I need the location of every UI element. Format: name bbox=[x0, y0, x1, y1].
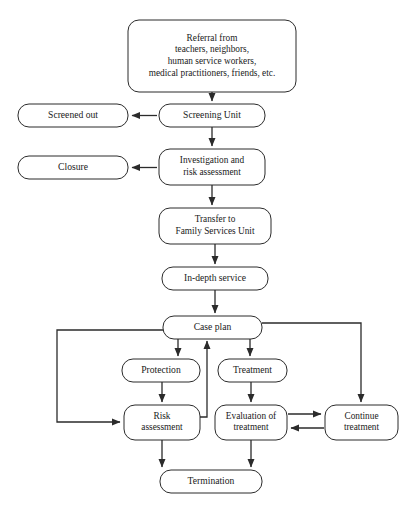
closure-node: Closure bbox=[18, 156, 128, 179]
referral-node-label-line: medical practitioners, friends, etc. bbox=[149, 68, 276, 78]
investigation-node-label-line: risk assessment bbox=[183, 167, 241, 177]
treatment-node: Treatment bbox=[218, 359, 287, 382]
continue-treatment-node-label-line: treatment bbox=[344, 422, 380, 432]
termination-node: Termination bbox=[160, 470, 262, 493]
in-depth-service-node: In-depth service bbox=[162, 267, 268, 290]
continue-treatment-node: Continuetreatment bbox=[325, 405, 398, 440]
termination-node-label-line: Termination bbox=[188, 475, 235, 486]
case-plan-node-label-line: Case plan bbox=[194, 321, 232, 332]
flowchart-diagram: Referral fromteachers, neighbors,human s… bbox=[0, 0, 417, 515]
evaluation-node: Evaluation oftreatment bbox=[215, 405, 287, 440]
investigation-node: Investigation andrisk assessment bbox=[159, 149, 265, 185]
referral-node-label-line: teachers, neighbors, bbox=[175, 44, 249, 54]
screening-unit-node: Screening Unit bbox=[159, 104, 265, 127]
continue-treatment-node-label-line: Continue bbox=[344, 411, 378, 421]
referral-node: Referral fromteachers, neighbors,human s… bbox=[128, 20, 296, 92]
treatment-node-label-line: Treatment bbox=[233, 364, 272, 375]
case-plan-node: Case plan bbox=[163, 316, 262, 339]
closure-node-label-line: Closure bbox=[58, 161, 88, 172]
in-depth-service-node-label-line: In-depth service bbox=[184, 272, 246, 283]
screened-out-node: Screened out bbox=[18, 104, 128, 127]
referral-node-label-line: Referral from bbox=[187, 33, 239, 43]
flowchart-canvas: Referral fromteachers, neighbors,human s… bbox=[0, 0, 417, 515]
protection-node: Protection bbox=[122, 359, 200, 382]
evaluation-node-label-line: treatment bbox=[233, 422, 269, 432]
screened-out-node-label-line: Screened out bbox=[48, 109, 98, 120]
transfer-node: Transfer toFamily Services Unit bbox=[159, 208, 271, 244]
edge-risk-assessment-to-case-plan bbox=[200, 341, 207, 417]
investigation-node-label-line: Investigation and bbox=[180, 155, 245, 165]
transfer-node-label-line: Family Services Unit bbox=[175, 226, 254, 236]
evaluation-node-label-line: Evaluation of bbox=[226, 411, 277, 421]
risk-assessment-node-label-line: Risk bbox=[153, 411, 170, 421]
screening-unit-node-label-line: Screening Unit bbox=[183, 109, 241, 120]
protection-node-label-line: Protection bbox=[141, 364, 181, 375]
risk-assessment-node: Riskassessment bbox=[124, 405, 200, 440]
referral-node-label-line: human service workers, bbox=[168, 56, 257, 66]
transfer-node-label-line: Transfer to bbox=[195, 214, 236, 224]
risk-assessment-node-label-line: assessment bbox=[141, 422, 183, 432]
